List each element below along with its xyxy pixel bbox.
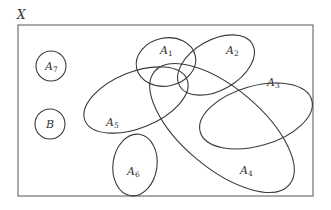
set-a1-label: A1	[159, 44, 173, 58]
set-b: B	[35, 109, 65, 139]
set-a2-label: A2	[225, 44, 239, 58]
set-a2-shape	[167, 22, 265, 107]
set-a4-label: A4	[239, 164, 253, 178]
set-a3-label: A3	[266, 76, 280, 90]
set-a7: A7	[36, 51, 66, 81]
set-b-label: B	[45, 118, 54, 131]
set-a4: A4	[129, 41, 315, 210]
set-a6: A6	[109, 131, 161, 199]
set-a6-shape	[109, 131, 161, 199]
universe-label: X	[16, 8, 26, 22]
set-a3: A3	[192, 71, 320, 161]
set-a6-label: A6	[126, 165, 140, 179]
set-a2: A2	[167, 22, 265, 107]
set-a5-label: A5	[105, 116, 119, 130]
venn-diagram: X A7 B A4 A3 A2 A1 A5 A6	[0, 0, 331, 210]
set-a4-shape	[129, 41, 315, 210]
set-a7-label: A7	[44, 60, 58, 74]
set-a1: A1	[132, 32, 201, 91]
set-a1-shape	[132, 32, 201, 91]
set-a3-shape	[192, 71, 320, 161]
